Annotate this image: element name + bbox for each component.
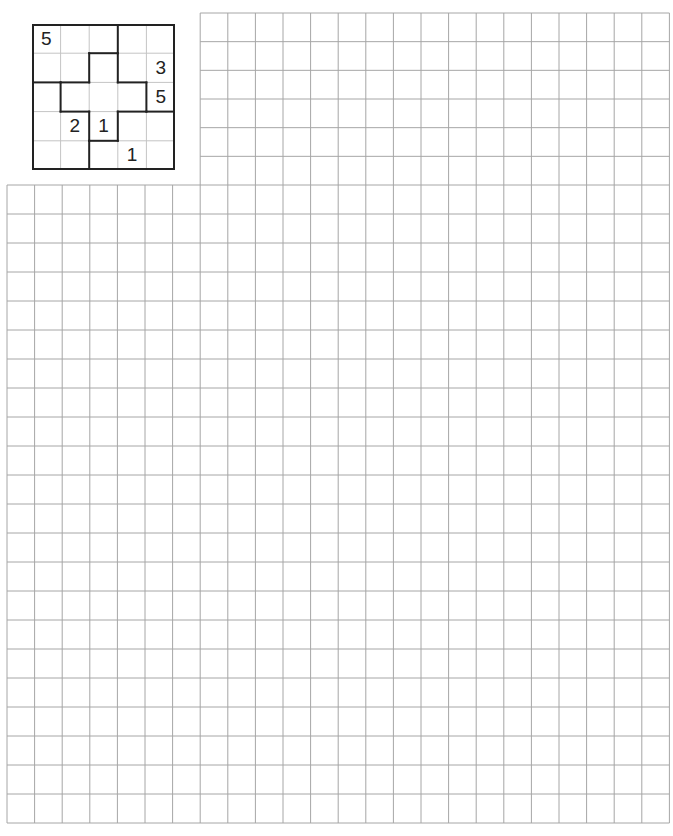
given-number: 1 <box>118 141 147 170</box>
given-number: 1 <box>89 112 118 141</box>
given-number: 3 <box>146 53 175 82</box>
puzzle-board: 535211 <box>32 24 175 170</box>
given-number: 2 <box>61 112 90 141</box>
given-number: 5 <box>146 82 175 111</box>
given-number: 5 <box>32 24 61 53</box>
